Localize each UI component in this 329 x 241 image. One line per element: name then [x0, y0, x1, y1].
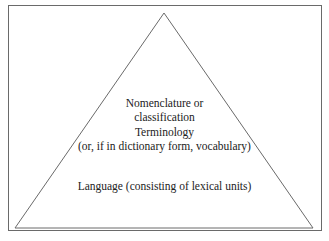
level-middle-label: Terminology (or, if in dictionary form, …	[0, 125, 329, 153]
level-bottom-line1: Language (consisting of lexical units)	[0, 179, 329, 193]
level-bottom-label: Language (consisting of lexical units)	[0, 179, 329, 193]
level-top-line1: Nomenclature or	[0, 96, 329, 110]
level-middle-line1: Terminology	[0, 125, 329, 139]
level-middle-line2: (or, if in dictionary form, vocabulary)	[0, 139, 329, 153]
level-top-label: Nomenclature or classification	[0, 96, 329, 124]
level-top-line2: classification	[0, 110, 329, 124]
